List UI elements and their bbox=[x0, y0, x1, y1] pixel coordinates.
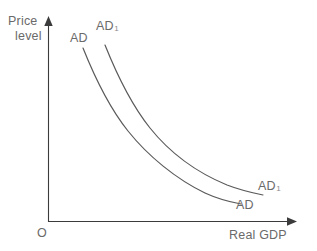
ad-curve-top-label: AD bbox=[70, 31, 88, 46]
ad1-curve-end-label-text: AD bbox=[258, 179, 276, 193]
ad1-curve-end-label: AD1 bbox=[258, 179, 281, 194]
x-axis-arrow-icon bbox=[287, 217, 297, 225]
ad1-curve-end-label-subscript: 1 bbox=[276, 184, 281, 193]
y-axis-title-line1: Price bbox=[8, 14, 37, 28]
ad1-curve-top-label-subscript: 1 bbox=[114, 24, 119, 33]
ad1-curve-top-label-text: AD bbox=[96, 19, 114, 33]
ad-curve-end-label: AD bbox=[236, 198, 254, 213]
origin-label: O bbox=[37, 226, 47, 241]
ad1-curve-top-label: AD1 bbox=[96, 19, 119, 34]
y-axis-title: Pricelevel bbox=[8, 14, 42, 43]
y-axis-title-line2: level bbox=[8, 29, 42, 44]
diagram-canvas bbox=[0, 0, 317, 251]
x-axis-title: Real GDP bbox=[229, 228, 287, 243]
y-axis-arrow-icon bbox=[44, 16, 52, 26]
ad-shift-diagram: Pricelevel Real GDP O AD AD1 AD1 AD bbox=[0, 0, 317, 251]
ad1-curve bbox=[105, 45, 263, 195]
